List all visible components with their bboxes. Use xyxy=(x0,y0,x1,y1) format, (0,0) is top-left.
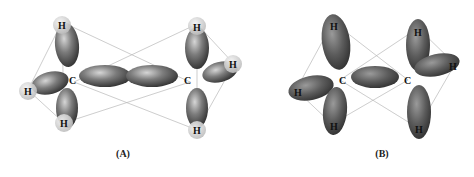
panel-a: H H H C C H H H xyxy=(19,16,242,139)
c-label: C xyxy=(184,75,191,86)
h-label: H xyxy=(60,118,68,129)
ethane-orbital-diagram: H H H C C H H H xyxy=(0,0,474,177)
c-label: C xyxy=(339,75,346,86)
h-label: H xyxy=(330,21,338,32)
h-label: H xyxy=(414,27,422,38)
h-label: H xyxy=(229,59,237,70)
panel-b: H H H C C H H H xyxy=(286,12,462,139)
h-label: H xyxy=(449,61,457,72)
h-label: H xyxy=(193,125,201,136)
h-label: H xyxy=(24,86,32,97)
cc-sigma-bond-b xyxy=(351,66,399,88)
right-carbon-lobes-a xyxy=(185,27,240,128)
h-label: H xyxy=(415,124,423,135)
caption-panel-b: (B) xyxy=(362,148,402,159)
caption-panel-a: (A) xyxy=(103,148,143,159)
c-label: C xyxy=(69,75,76,86)
h-label: H xyxy=(294,87,302,98)
h-label: H xyxy=(193,22,201,33)
cc-sigma-overlap-a xyxy=(79,65,178,87)
c-label: C xyxy=(404,75,411,86)
h-label: H xyxy=(58,20,66,31)
h-label: H xyxy=(330,121,338,132)
